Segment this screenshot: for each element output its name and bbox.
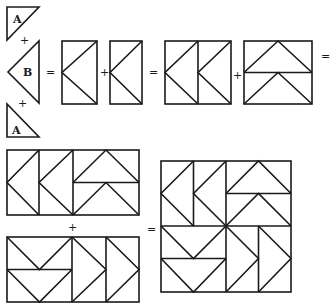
plus-operator: + xyxy=(233,69,242,82)
flying-geese-unit-1 xyxy=(62,41,97,104)
double-unit-up xyxy=(244,41,312,104)
label-a-bottom: A xyxy=(11,124,21,137)
label-a-top: A xyxy=(12,13,22,26)
plus-operator: + xyxy=(18,97,27,110)
plus-operator: + xyxy=(68,221,77,234)
equals-operator: = xyxy=(147,223,156,236)
label-b: B xyxy=(23,66,32,79)
plus-operator: + xyxy=(20,34,29,47)
finished-block xyxy=(161,161,291,292)
plus-operator: + xyxy=(100,66,109,79)
quilt-assembly-diagram: A + B + A = + = + = xyxy=(0,0,331,308)
equals-operator: = xyxy=(46,66,55,79)
half-row-bottom xyxy=(7,237,139,302)
double-unit-left xyxy=(165,41,231,104)
equals-operator: = xyxy=(149,66,158,79)
half-row-top xyxy=(7,150,139,215)
triangle-b: B xyxy=(8,41,39,103)
flying-geese-unit-2 xyxy=(110,41,142,104)
equals-operator: = xyxy=(321,50,330,63)
